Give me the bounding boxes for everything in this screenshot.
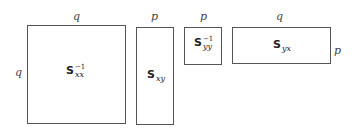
matrix-symbol: S (66, 64, 74, 77)
matrix-label: S−1xx (66, 63, 85, 79)
subscript: xy (156, 74, 165, 83)
matrix-syx: Syx (232, 27, 331, 64)
sxx-top-dimension: q (73, 10, 80, 23)
matrix-sxx-inverse: S−1xx (27, 25, 126, 124)
subscript: yx (282, 44, 291, 53)
matrix-label: Syx (273, 38, 291, 51)
subscript: xx (75, 71, 85, 79)
sxy-top-dimension: p (151, 10, 158, 23)
matrix-sxy: Sxy (136, 27, 174, 125)
matrix-label: Sxy (147, 68, 165, 81)
matrix-symbol: S (194, 36, 202, 49)
subscript: yy (203, 43, 213, 51)
matrix-symbol: S (147, 68, 155, 81)
syx-top-dimension: q (276, 10, 283, 23)
matrix-symbol: S (273, 38, 281, 51)
syx-side-dimension: p (334, 44, 341, 57)
sxx-side-dimension: q (15, 66, 22, 79)
syy-top-dimension: p (200, 10, 207, 23)
matrix-syy-inverse: S−1yy (184, 27, 222, 65)
matrix-label: S−1yy (194, 35, 213, 51)
